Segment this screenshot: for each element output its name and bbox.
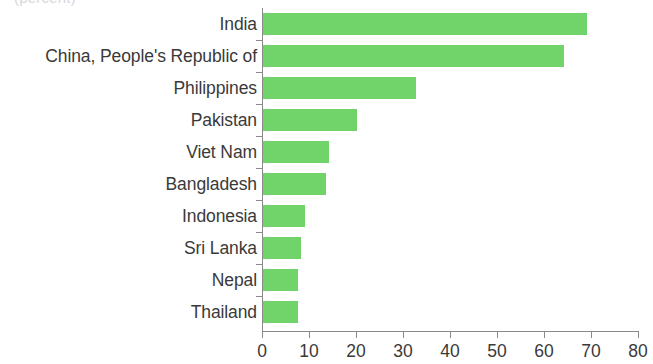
x-axis-tick-label: 20 (346, 341, 365, 362)
x-axis-tick (309, 331, 310, 338)
bar-row: Nepal (0, 264, 653, 296)
x-axis-tick (356, 331, 357, 338)
y-axis-tick (256, 168, 262, 169)
bar-category-label: Thailand (191, 302, 257, 323)
bar-category-label: Philippines (173, 78, 257, 99)
x-axis-tick-label: 30 (393, 341, 412, 362)
y-axis-tick (256, 264, 262, 265)
x-axis-tick (638, 331, 639, 338)
bar (263, 269, 298, 291)
bar-row: Indonesia (0, 200, 653, 232)
bar-row: India (0, 8, 653, 40)
x-axis-tick-label: 40 (440, 341, 459, 362)
bar-category-label: China, People's Republic of (45, 46, 257, 67)
x-axis-tick (262, 331, 263, 338)
x-axis-tick-label: 10 (299, 341, 318, 362)
x-axis-tick (591, 331, 592, 338)
bar-row: Bangladesh (0, 168, 653, 200)
bar-category-label: Viet Nam (186, 142, 257, 163)
bar-category-label: Indonesia (182, 206, 257, 227)
bar-row: Pakistan (0, 104, 653, 136)
y-axis-tick (256, 136, 262, 137)
y-axis-tick (256, 40, 262, 41)
x-axis-tick-label: 60 (534, 341, 553, 362)
y-axis-tick (256, 296, 262, 297)
x-axis-tick-label: 80 (628, 341, 647, 362)
bar (263, 45, 564, 67)
x-axis-tick-label: 70 (581, 341, 600, 362)
x-axis-tick (497, 331, 498, 338)
bar (263, 301, 298, 323)
x-axis-tick-label: 0 (257, 341, 267, 362)
bar-category-label: India (220, 14, 257, 35)
bar-chart-figure: (percent) IndiaChina, People's Republic … (0, 0, 653, 364)
bar (263, 237, 301, 259)
y-axis-tick (256, 72, 262, 73)
bar (263, 205, 305, 227)
bar (263, 13, 587, 35)
bar-row: Sri Lanka (0, 232, 653, 264)
bar-row: Philippines (0, 72, 653, 104)
x-axis-tick (544, 331, 545, 338)
bar-row: China, People's Republic of (0, 40, 653, 72)
y-axis-tick (256, 104, 262, 105)
bar-row: Viet Nam (0, 136, 653, 168)
bar-category-label: Sri Lanka (184, 238, 257, 259)
bar-category-label: Bangladesh (166, 174, 257, 195)
y-axis-tick (256, 200, 262, 201)
bar-row: Thailand (0, 296, 653, 328)
plot-area: IndiaChina, People's Republic ofPhilippi… (0, 0, 653, 364)
bar-category-label: Pakistan (191, 110, 257, 131)
x-axis-tick-label: 50 (487, 341, 506, 362)
y-axis-tick (256, 232, 262, 233)
bar (263, 77, 416, 99)
bar (263, 173, 326, 195)
bar-category-label: Nepal (212, 270, 257, 291)
bar (263, 141, 329, 163)
x-axis-tick (450, 331, 451, 338)
bar (263, 109, 357, 131)
x-axis-tick (403, 331, 404, 338)
